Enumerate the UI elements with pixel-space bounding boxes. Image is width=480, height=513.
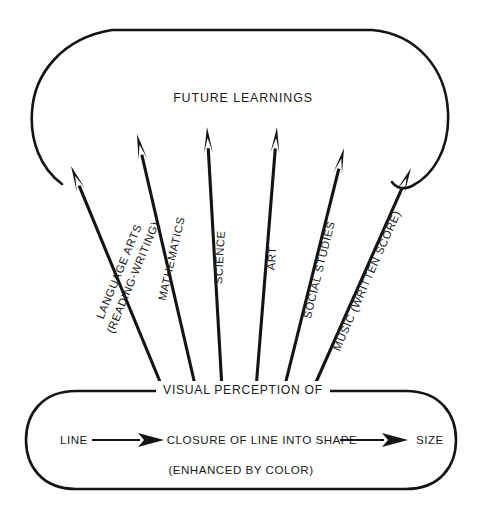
flow-end-label: SIZE xyxy=(416,433,444,446)
spoke-label-group-science: SCIENCE xyxy=(212,230,227,284)
spoke-label-group-social-studies: SOCIAL STUDIES xyxy=(301,220,337,320)
enhanced-by-color-label: (ENHANCED BY COLOR) xyxy=(168,463,313,476)
spoke-label-art: ART xyxy=(265,246,279,271)
spoke-label-group-language-arts: LANGUAGE ARTS(READING-WRITING) xyxy=(90,214,161,335)
future-learnings-blob xyxy=(32,30,448,188)
spoke-label-social-studies: SOCIAL STUDIES xyxy=(301,220,337,320)
arrow-head-icon xyxy=(71,166,85,192)
spoke-label-group-art: ART xyxy=(265,246,279,271)
spoke-label-music: MUSIC (WRITTEN SCORE) xyxy=(330,209,403,353)
spoke-label-science: SCIENCE xyxy=(212,230,227,284)
flow-start-label: LINE xyxy=(60,433,88,446)
spoke-labels-layer: LANGUAGE ARTS(READING-WRITING)MATHEMATIC… xyxy=(90,209,402,353)
arrow-head-icon xyxy=(396,168,411,194)
spoke-label-group-music: MUSIC (WRITTEN SCORE) xyxy=(330,209,403,353)
arrow-right-icon xyxy=(138,433,164,447)
diagram-canvas: LANGUAGE ARTS(READING-WRITING)MATHEMATIC… xyxy=(0,0,480,513)
flow-middle-label: CLOSURE OF LINE INTO SHAPE xyxy=(167,433,358,446)
arrow-right-icon-2 xyxy=(382,433,408,447)
visual-perception-diagram: LANGUAGE ARTS(READING-WRITING)MATHEMATIC… xyxy=(0,0,480,513)
future-learnings-label: FUTURE LEARNINGS xyxy=(173,91,313,105)
visual-perception-label: VISUAL PERCEPTION OF xyxy=(163,383,323,397)
